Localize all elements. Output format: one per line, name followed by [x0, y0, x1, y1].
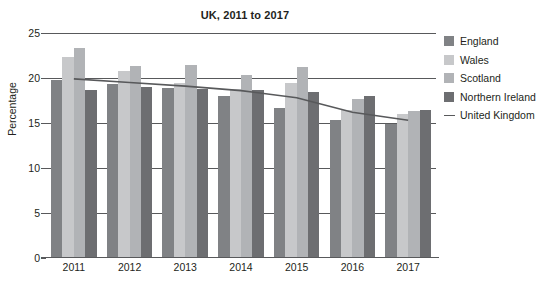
plot-area: 2011201220132014201520162017: [46, 33, 436, 258]
x-axis-tick-label: 2011: [46, 261, 102, 273]
bar: [341, 110, 352, 258]
bar: [241, 75, 252, 258]
legend-swatch-icon: [444, 73, 454, 83]
bar-group: [102, 33, 158, 258]
bar-group: [269, 33, 325, 258]
legend-swatch-icon: [444, 55, 454, 65]
legend-item[interactable]: United Kingdom: [444, 106, 552, 125]
y-axis-tick-label: 15: [14, 117, 40, 129]
y-axis-tick-label: 0: [14, 252, 40, 264]
bar: [420, 110, 431, 258]
y-axis-tick-label: 25: [14, 27, 40, 39]
legend-item[interactable]: Scotland: [444, 69, 552, 88]
x-axis-tick-label: 2014: [213, 261, 269, 273]
legend-item-label: England: [460, 35, 499, 47]
legend-item-label: United Kingdom: [460, 109, 535, 121]
chart-container: UK, 2011 to 2017 Percentage 0510152025 2…: [0, 0, 552, 291]
bar-group: [325, 33, 381, 258]
legend-item-label: Northern Ireland: [460, 91, 536, 103]
chart-title: UK, 2011 to 2017: [60, 9, 430, 21]
bar: [62, 57, 73, 258]
bar: [141, 87, 152, 258]
bar: [330, 120, 341, 258]
bar-group: [157, 33, 213, 258]
bar: [51, 80, 62, 258]
bar-group: [380, 33, 436, 258]
bar: [352, 99, 363, 258]
bar: [408, 111, 419, 258]
y-axis-tick-label: 20: [14, 72, 40, 84]
bar: [218, 96, 229, 258]
bar: [197, 89, 208, 258]
legend-item[interactable]: England: [444, 32, 552, 51]
bar: [397, 114, 408, 258]
y-axis-tick: [41, 258, 46, 259]
legend-swatch-icon: [444, 92, 454, 102]
x-axis-tick-label: 2015: [269, 261, 325, 273]
legend-item-label: Scotland: [460, 72, 501, 84]
bar: [364, 96, 375, 258]
bar: [185, 65, 196, 258]
bar: [230, 89, 241, 258]
legend-line-icon: [444, 110, 454, 120]
legend-item[interactable]: Northern Ireland: [444, 88, 552, 107]
bar: [118, 71, 129, 258]
chart-legend: EnglandWalesScotlandNorthern IrelandUnit…: [444, 32, 552, 125]
x-axis-tick-label: 2013: [157, 261, 213, 273]
y-axis-tick-label: 10: [14, 162, 40, 174]
bar: [107, 84, 118, 258]
bar: [74, 48, 85, 258]
bar-group: [213, 33, 269, 258]
bar: [174, 83, 185, 259]
x-axis-tick-label: 2016: [325, 261, 381, 273]
x-axis-tick-label: 2017: [380, 261, 436, 273]
bar: [285, 83, 296, 259]
legend-item[interactable]: Wales: [444, 51, 552, 70]
bar: [274, 108, 285, 258]
bar: [308, 92, 319, 259]
y-axis-tick-labels: 0510152025: [8, 33, 40, 258]
x-axis-line: [41, 257, 439, 258]
bar: [385, 124, 396, 258]
bar-group: [46, 33, 102, 258]
x-axis-tick-label: 2012: [102, 261, 158, 273]
y-axis-tick-label: 5: [14, 207, 40, 219]
bar: [130, 66, 141, 258]
legend-swatch-icon: [444, 36, 454, 46]
bar: [252, 90, 263, 258]
bar: [85, 90, 96, 258]
bar: [162, 88, 173, 258]
bar: [297, 67, 308, 258]
legend-item-label: Wales: [460, 54, 489, 66]
